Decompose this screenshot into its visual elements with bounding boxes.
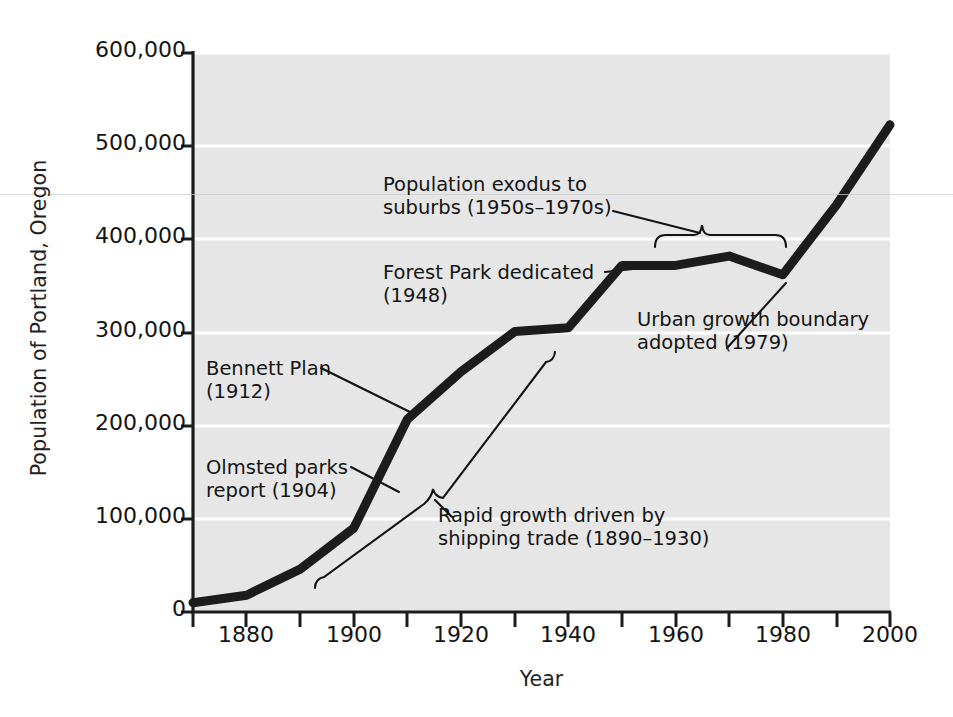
population-chart-figure: 600,000 500,000 400,000 300,000 200,000 … [0, 0, 953, 717]
x-tick-1900: 1900 [294, 622, 414, 647]
x-tick-1980: 1980 [723, 622, 843, 647]
annotation-population-exodus: Population exodus to suburbs (1950s–1970… [383, 173, 612, 219]
y-axis-label: Population of Portland, Oregon [27, 83, 51, 553]
annotation-rapid-growth: Rapid growth driven by shipping trade (1… [438, 504, 709, 550]
annotation-bennett-plan: Bennett Plan (1912) [206, 357, 331, 403]
x-tick-1880: 1880 [186, 622, 306, 647]
x-tick-1920: 1920 [401, 622, 521, 647]
x-tick-1940: 1940 [508, 622, 628, 647]
x-axis-label: Year [193, 667, 890, 691]
x-tick-1960: 1960 [616, 622, 736, 647]
annotation-urban-growth-boundary: Urban growth boundary adopted (1979) [637, 308, 869, 354]
annotation-olmsted-parks: Olmsted parks report (1904) [206, 456, 348, 502]
annotation-forest-park: Forest Park dedicated (1948) [383, 261, 594, 307]
x-tick-2000: 2000 [830, 622, 950, 647]
